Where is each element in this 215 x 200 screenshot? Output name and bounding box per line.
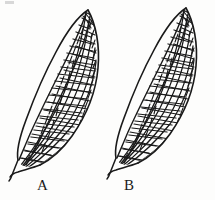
wing-illustration-svg bbox=[0, 0, 215, 200]
panel-label-a: A bbox=[37, 178, 48, 193]
wing-panel-b bbox=[107, 8, 197, 179]
figure-plate: A B bbox=[0, 0, 215, 200]
panel-label-b: B bbox=[124, 178, 134, 193]
wing-b-base-stalk bbox=[107, 158, 116, 179]
wing-panel-a bbox=[9, 10, 99, 181]
wing-a-base-stalk bbox=[9, 160, 18, 181]
